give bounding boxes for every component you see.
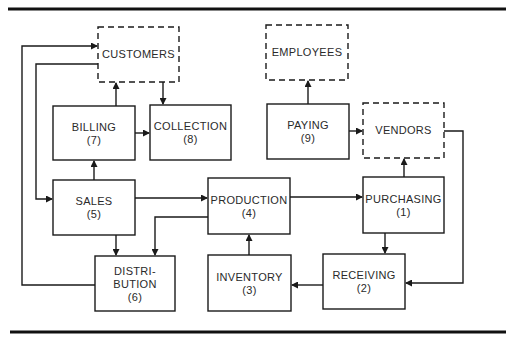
flowchart-diagram: CUSTOMERS EMPLOYEES VENDORS BILLING (7) …: [0, 0, 506, 337]
process-distribution: DISTRI- BUTION (6): [95, 256, 175, 311]
process-label: PAYING: [287, 119, 329, 131]
entity-label: EMPLOYEES: [272, 46, 343, 58]
process-number: (7): [87, 134, 101, 146]
process-label: RECEIVING: [332, 269, 395, 281]
process-label: PRODUCTION: [211, 194, 288, 206]
process-number: (5): [87, 208, 101, 220]
process-label: COLLECTION: [154, 120, 227, 132]
process-number: (2): [357, 282, 371, 294]
process-number: (9): [301, 132, 315, 144]
flow-connectors: [22, 46, 463, 285]
process-label-line1: DISTRI-: [114, 265, 156, 277]
process-receiving: RECEIVING (2): [323, 254, 405, 309]
process-number: (3): [242, 284, 256, 296]
process-inventory: INVENTORY (3): [208, 255, 291, 311]
entity-label: CUSTOMERS: [102, 48, 175, 60]
process-label: BILLING: [72, 121, 116, 133]
entity-label: VENDORS: [375, 124, 432, 136]
process-paying: PAYING (9): [267, 104, 349, 159]
process-sales: SALES (5): [53, 180, 135, 235]
entity-customers: CUSTOMERS: [98, 27, 179, 82]
process-label-line2: BUTION: [113, 278, 156, 290]
process-collection: COLLECTION (8): [150, 105, 231, 160]
entity-vendors: VENDORS: [363, 103, 444, 158]
process-number: (8): [183, 133, 197, 145]
entity-employees: EMPLOYEES: [266, 25, 348, 80]
process-number: (6): [128, 291, 142, 303]
process-label: INVENTORY: [216, 271, 283, 283]
process-number: (1): [396, 206, 410, 218]
process-label: PURCHASING: [365, 193, 441, 205]
process-production: PRODUCTION (4): [208, 178, 290, 234]
process-purchasing: PURCHASING (1): [363, 177, 444, 233]
process-number: (4): [242, 207, 256, 219]
process-label: SALES: [76, 195, 113, 207]
process-billing: BILLING (7): [53, 106, 135, 160]
